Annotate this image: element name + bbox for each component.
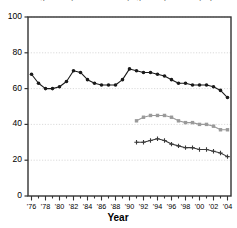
data-point-marker: [141, 140, 145, 144]
data-point-marker: [163, 74, 167, 78]
data-point-marker: [142, 71, 146, 75]
y-axis-tick-label: 80: [0, 48, 22, 57]
data-point-marker: [191, 121, 194, 124]
data-point-marker: [156, 72, 160, 76]
data-point-marker: [219, 89, 223, 93]
data-point-marker: [142, 116, 145, 119]
data-point-marker: [226, 96, 230, 100]
data-point-marker: [162, 138, 166, 142]
data-point-marker: [149, 114, 152, 117]
data-point-marker: [225, 154, 229, 158]
data-point-marker: [135, 69, 139, 73]
data-point-marker: [211, 149, 215, 153]
y-axis-tick-label: 20: [0, 155, 22, 164]
data-point-marker: [197, 147, 201, 151]
y-axis-tick-label: 60: [0, 84, 22, 93]
data-point-marker: [86, 78, 90, 82]
data-point-marker: [30, 72, 34, 76]
data-point-marker: [176, 144, 180, 148]
y-axis-tick-label: 0: [0, 191, 22, 200]
data-point-marker: [163, 114, 166, 117]
data-point-marker: [37, 81, 41, 85]
data-point-marker: [191, 83, 195, 87]
data-point-marker: [198, 123, 201, 126]
data-point-marker: [170, 116, 173, 119]
data-point-marker: [205, 123, 208, 126]
data-point-marker: [177, 119, 180, 122]
data-point-marker: [212, 124, 215, 127]
data-point-marker: [93, 81, 97, 85]
data-point-marker: [149, 71, 153, 75]
data-point-marker: [183, 145, 187, 149]
data-point-marker: [121, 78, 125, 82]
y-axis-tick-label: 40: [0, 119, 22, 128]
data-point-marker: [100, 83, 104, 87]
data-point-marker: [107, 83, 111, 87]
x-axis-tick-label: '04: [217, 202, 237, 211]
data-point-marker: [218, 151, 222, 155]
data-point-marker: [204, 147, 208, 151]
data-point-marker: [114, 83, 118, 87]
chart-figure: Percentage of Boys and Girls Playing Var…: [0, 0, 236, 228]
data-point-marker: [184, 81, 188, 85]
data-point-marker: [177, 81, 181, 85]
data-point-marker: [128, 67, 132, 71]
chart-title: Percentage of Boys and Girls Playing Var…: [0, 0, 236, 1]
plot-frame: [28, 17, 231, 196]
y-axis-tick-label: 100: [0, 12, 22, 21]
data-point-marker: [148, 138, 152, 142]
data-point-marker: [72, 69, 76, 73]
data-point-marker: [79, 71, 83, 75]
data-point-marker: [65, 80, 69, 84]
data-point-marker: [198, 83, 202, 87]
data-point-marker: [212, 85, 216, 89]
data-point-marker: [184, 121, 187, 124]
data-point-marker: [190, 145, 194, 149]
x-axis-title: Year: [0, 212, 236, 223]
data-point-marker: [169, 142, 173, 146]
data-point-marker: [58, 85, 62, 89]
data-point-marker: [219, 128, 222, 131]
data-point-marker: [156, 114, 159, 117]
plot-area: [0, 0, 236, 228]
series-line-series-1-top: [32, 69, 228, 98]
data-point-marker: [135, 119, 138, 122]
data-point-marker: [51, 87, 55, 91]
data-point-marker: [155, 137, 159, 141]
data-point-marker: [44, 87, 48, 91]
data-point-marker: [205, 83, 209, 87]
data-point-marker: [226, 128, 229, 131]
data-point-marker: [170, 78, 174, 82]
data-point-marker: [134, 140, 138, 144]
